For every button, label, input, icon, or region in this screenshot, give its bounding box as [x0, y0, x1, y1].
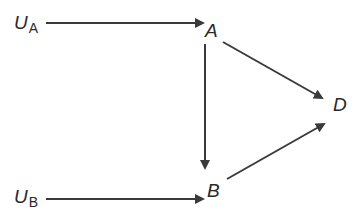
node-ub: UB — [14, 186, 38, 210]
svg-text:A: A — [204, 20, 218, 41]
causal-diagram: UA A D B UB — [0, 0, 364, 218]
svg-text:UA: UA — [14, 12, 39, 36]
node-ua: UA — [14, 12, 39, 36]
node-b: B — [207, 180, 220, 201]
svg-text:D: D — [333, 94, 347, 115]
edge-a-to-d — [223, 42, 322, 98]
svg-text:B: B — [207, 180, 220, 201]
svg-text:UB: UB — [14, 186, 38, 210]
edge-b-to-d — [227, 124, 324, 179]
node-d: D — [333, 94, 347, 115]
node-a: A — [204, 20, 218, 41]
